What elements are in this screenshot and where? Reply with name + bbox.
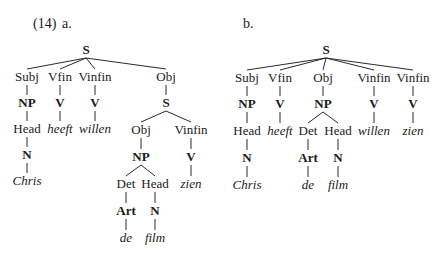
tree-a-node-head1: Head [13, 122, 40, 136]
tree-b-node-vinfin1: Vinfin [357, 71, 390, 85]
tree-b-node-np2: NP [314, 97, 331, 111]
tree-a-node-n1: N [22, 148, 31, 162]
tree-b-node-n1: N [242, 151, 251, 165]
tree-a-node-art: Art [116, 204, 136, 218]
tree-a-node-obj: Obj [156, 70, 176, 84]
tree-edge [86, 58, 166, 69]
tree-b-node-de: de [302, 178, 314, 192]
tree-b-node-n2: N [333, 151, 342, 165]
tree-a-node-vinfin2: Vinfin [174, 123, 207, 137]
tree-edge [323, 112, 338, 123]
tree-a-node-zien: zien [181, 177, 202, 191]
tree-a-node-s2: S [162, 96, 169, 110]
tree-edge [141, 165, 155, 176]
tree-a-node-de: de [120, 231, 132, 245]
tree-b-node-subj: Subj [235, 71, 259, 85]
tree-edge [323, 58, 326, 70]
tree-edge [166, 111, 191, 122]
syntax-tree-figure: (14) a. b. SSubjVfinVinfinObjNPVVSHeadhe… [0, 0, 440, 259]
tree-b-node-v3: V [408, 97, 417, 111]
tree-a-node-vinfin1: Vinfin [78, 70, 111, 84]
tree-a-node-vfin: Vfin [48, 70, 72, 84]
tree-a-node-v1: V [55, 96, 64, 110]
tree-a-node-np1: NP [18, 96, 35, 110]
tree-b-node-v2: V [369, 97, 378, 111]
tree-a-node-head2: Head [141, 177, 168, 191]
tree-a-node-np2: NP [132, 150, 149, 164]
tree-a-node-n2: N [150, 204, 159, 218]
tree-a-node-heeft: heeft [47, 122, 72, 136]
tree-b-node-head1: Head [233, 124, 260, 138]
tree-a-node-chris: Chris [13, 174, 42, 188]
tree-b-node-zien: zien [403, 124, 424, 138]
tree-b-node-v1: V [275, 97, 284, 111]
tree-a-node-willen: willen [79, 122, 111, 136]
tree-edge [86, 58, 95, 69]
tree-edge [308, 112, 323, 123]
tree-a-node-film: film [145, 231, 165, 245]
tree-b-node-heeft: heeft [267, 124, 292, 138]
tree-b-node-chris: Chris [233, 178, 262, 192]
tree-b-node-s: S [322, 43, 329, 57]
tree-b-node-vfin: Vfin [268, 71, 292, 85]
tree-b-node-head2: Head [324, 124, 351, 138]
tree-edge [27, 58, 86, 69]
tree-a-node-s: S [82, 43, 89, 57]
tree-edge [60, 58, 86, 69]
tree-b-node-film: film [328, 178, 348, 192]
tree-edge [326, 58, 413, 70]
tree-edge [126, 165, 141, 176]
tree-a-node-subj: Subj [15, 70, 39, 84]
tree-b-node-art: Art [298, 151, 318, 165]
tree-b-node-np1: NP [238, 97, 255, 111]
tree-edge [141, 111, 166, 122]
tree-a-node-v2: V [90, 96, 99, 110]
tree-a-node-det: Det [117, 177, 136, 191]
tree-b-node-vinfin2: Vinfin [396, 71, 429, 85]
tree-a-node-obj2: Obj [131, 123, 151, 137]
tree-b-node-willen: willen [358, 124, 390, 138]
tree-b-node-obj: Obj [313, 71, 333, 85]
tree-a-node-v3: V [186, 150, 195, 164]
tree-b-node-det: Det [299, 124, 318, 138]
